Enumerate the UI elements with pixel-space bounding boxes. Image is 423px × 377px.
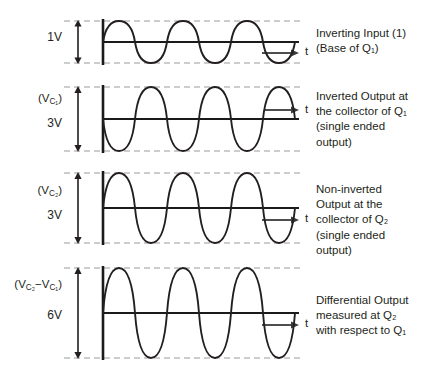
signal-label-4: (VC₂−VC₁) <box>0 278 62 292</box>
signal-label-sub: C₂ <box>26 283 35 292</box>
panel-inverting-input: 1V t Inverting Input ( <box>0 0 423 78</box>
description-line: output) <box>316 135 408 150</box>
signal-label-base: (V <box>14 278 26 290</box>
description-line: Non-inverted <box>316 182 388 197</box>
amplitude-arrow-3 <box>74 172 81 244</box>
description-line: Inverting Input (1) <box>316 26 406 41</box>
time-axis-label-2: t <box>305 103 308 115</box>
description-1: Inverting Input (1) (Base of Q₁) <box>316 26 406 56</box>
signal-label-base: (V <box>38 92 50 104</box>
amplitude-arrow-2 <box>74 86 81 152</box>
signal-label-2: (VC₁) <box>0 92 62 106</box>
description-line: (single ended <box>316 119 408 134</box>
signal-label-3: (VC₂) <box>0 184 62 198</box>
signal-label-base: (V <box>37 184 49 196</box>
signal-label-sub: C₂ <box>49 189 58 198</box>
signal-label-sub2: C₁ <box>49 283 58 292</box>
panel-vc2: (VC₂) 3V t Non-inverted Output at the <box>0 168 423 260</box>
signal-label-sub: C₁ <box>49 97 58 106</box>
amplitude-arrow-1 <box>74 20 81 64</box>
description-line: output) <box>316 243 388 258</box>
panel-vc1: (VC₁) 3V t Inverted Output at the collec… <box>0 78 423 168</box>
amplitude-label-4: 6V <box>14 309 62 321</box>
panel-differential: (VC₂−VC₁) 6V t Differential Output measu… <box>0 260 423 377</box>
description-line: Differential Output <box>316 293 408 308</box>
amplitude-label-2: 3V <box>14 117 62 129</box>
amplitude-label-3: 3V <box>14 209 62 221</box>
time-axis-label-4: t <box>305 317 308 329</box>
description-3: Non-inverted Output at the collector of … <box>316 182 388 258</box>
amplitude-arrow-4 <box>74 267 81 359</box>
description-line: with respect to Q₁ <box>316 323 408 338</box>
description-line: (single ended <box>316 228 388 243</box>
time-axis-label-1: t <box>305 45 308 57</box>
description-4: Differential Output measured at Q₂ with … <box>316 293 408 339</box>
description-line: Inverted Output at <box>316 89 408 104</box>
time-axis-label-3: t <box>305 212 308 224</box>
description-line: the collector of Q₁ <box>316 104 408 119</box>
amplitude-label-1: 1V <box>14 31 62 43</box>
description-line: (Base of Q₁) <box>316 41 406 56</box>
description-2: Inverted Output at the collector of Q₁ (… <box>316 89 408 150</box>
description-line: measured at Q₂ <box>316 308 408 323</box>
description-line: collector of Q₂ <box>316 212 388 227</box>
signal-label-mid: −V <box>35 278 49 290</box>
description-line: Output at the <box>316 197 388 212</box>
waveform-figure: 1V t Inverting Input ( <box>0 0 423 377</box>
